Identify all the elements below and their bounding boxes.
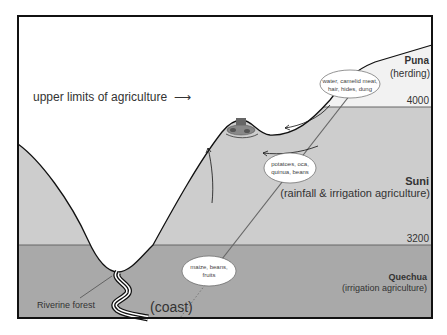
zone-quechua-use: (irrigation agriculture) — [342, 283, 427, 293]
zone-suni-name: Suni — [405, 175, 429, 187]
coast-label: (coast) — [150, 299, 193, 315]
resource-text-quechua: maize, beans,fruits — [182, 263, 236, 279]
zone-quechua-name: Quechua — [388, 272, 427, 282]
altitude-4000: 4000 — [407, 95, 429, 106]
zone-suni-use: (rainfall & irrigation agriculture) — [280, 187, 430, 199]
zone-puna-use: (herding) — [390, 68, 430, 79]
resource-text-suni: potatoes, oca,quinua, beans — [264, 160, 316, 176]
upper-limits-label: upper limits of agriculture ⟶ — [33, 90, 191, 104]
zone-puna-name: Puna — [405, 55, 429, 66]
resource-text-puna: water, camelid meat,hair, hides, dung — [320, 77, 380, 93]
altitude-3200: 3200 — [407, 233, 429, 244]
riverine-forest-label: Riverine forest — [37, 300, 95, 310]
